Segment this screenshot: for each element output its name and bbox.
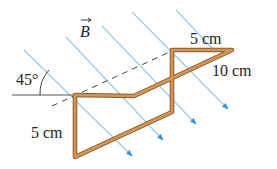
- field-symbol: B: [80, 23, 90, 40]
- vector-arrow-icon: [81, 18, 91, 22]
- diagonal-segment-label: 10 cm: [212, 62, 252, 79]
- field-vector-label: B: [80, 18, 91, 40]
- diagram-svg: B 45° 5 cm 10 cm 5 cm: [0, 0, 277, 169]
- angle-label: 45°: [16, 71, 38, 88]
- wire-loop: [75, 50, 232, 157]
- top-segment-label: 5 cm: [190, 30, 222, 47]
- left-segment-label: 5 cm: [31, 124, 63, 141]
- magnetic-field-loop-diagram: B 45° 5 cm 10 cm 5 cm: [0, 0, 277, 169]
